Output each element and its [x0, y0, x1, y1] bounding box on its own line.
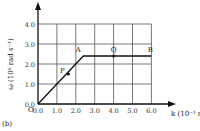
y-axis-arrow-icon [35, 2, 41, 10]
x-tick-label: 6.0 [146, 107, 156, 115]
y-tick-label: 2.0 [25, 61, 35, 69]
chart: 0.01.02.03.04.05.06.00.01.02.03.04.0 PAQ… [0, 0, 200, 131]
point-label-a: A [75, 46, 82, 54]
x-tick-label: 5.0 [127, 107, 137, 115]
x-axis-arrow-icon [168, 101, 176, 107]
point-label-b: B [148, 46, 153, 54]
panel-label: (b) [2, 120, 12, 128]
point-marker-q [112, 54, 115, 57]
data-points: PAQB [60, 46, 153, 76]
tick-labels: 0.01.02.03.04.05.06.00.01.02.03.04.0 [25, 21, 157, 116]
y-axis-label: ω (10⁶ rad s⁻¹) [7, 38, 15, 90]
x-tick-label: 2.0 [71, 107, 81, 115]
y-tick-label: 1.0 [25, 81, 35, 89]
point-label-q: Q [111, 46, 117, 54]
point-marker-p [67, 72, 70, 75]
y-tick-label: 4.0 [25, 21, 35, 29]
grid-lines [38, 24, 151, 104]
y-tick-label: 3.0 [25, 41, 35, 49]
point-label-p: P [60, 67, 65, 75]
axes [35, 2, 176, 107]
x-tick-label: 1.0 [52, 107, 62, 115]
x-tick-label: 4.0 [108, 107, 118, 115]
origin-label: O [28, 106, 34, 114]
x-axis-label: k (10⁻³ m⁻¹) [171, 110, 200, 118]
x-tick-label: 3.0 [90, 107, 100, 115]
